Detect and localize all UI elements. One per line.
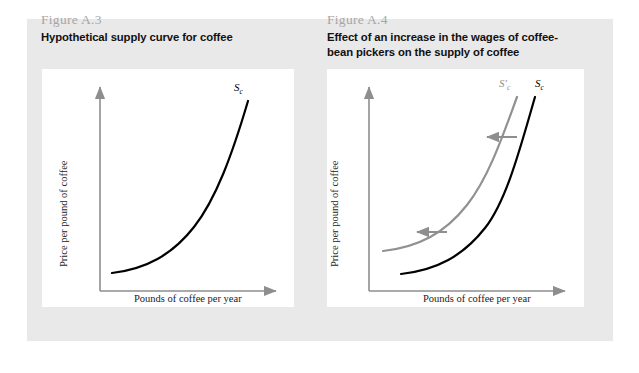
figure-a4-y-axis-label: Price per pound of coffee (329, 160, 340, 267)
figure-a3-chart-svg (42, 69, 294, 307)
supply-curve-sc-prime (383, 97, 517, 251)
figure-a4-number: Figure A.4 (327, 12, 388, 28)
figure-a4: Figure A.4 Effect of an increase in the … (313, 0, 598, 322)
figure-a4-curve-label-sc-prime: S′c (499, 77, 510, 92)
supply-curve-sc (401, 97, 535, 274)
figure-a3-plot-area: Price per pound of coffee Pounds of coff… (42, 69, 294, 307)
figure-a3-y-axis-label: Price per pound of coffee (58, 160, 69, 267)
figure-a4-chart-svg (327, 69, 584, 307)
figure-a4-x-axis-label: Pounds of coffee per year (423, 293, 531, 304)
figure-a3-x-axis-label: Pounds of coffee per year (134, 293, 242, 304)
figure-a4-plot-area: Price per pound of coffee Pounds of coff… (327, 69, 584, 307)
figure-a3-curve-label-sc: Sc (234, 81, 243, 96)
figure-page: Figure A.3 Hypothetical supply curve for… (0, 0, 639, 373)
figure-a3-number: Figure A.3 (41, 12, 102, 28)
figure-a4-curve-label-sc: Sc (535, 77, 544, 92)
figure-a3: Figure A.3 Hypothetical supply curve for… (27, 0, 307, 322)
figure-a3-title: Hypothetical supply curve for coffee (41, 30, 293, 45)
figure-a4-title: Effect of an increase in the wages of co… (327, 30, 579, 59)
supply-curve-sc (112, 101, 248, 273)
